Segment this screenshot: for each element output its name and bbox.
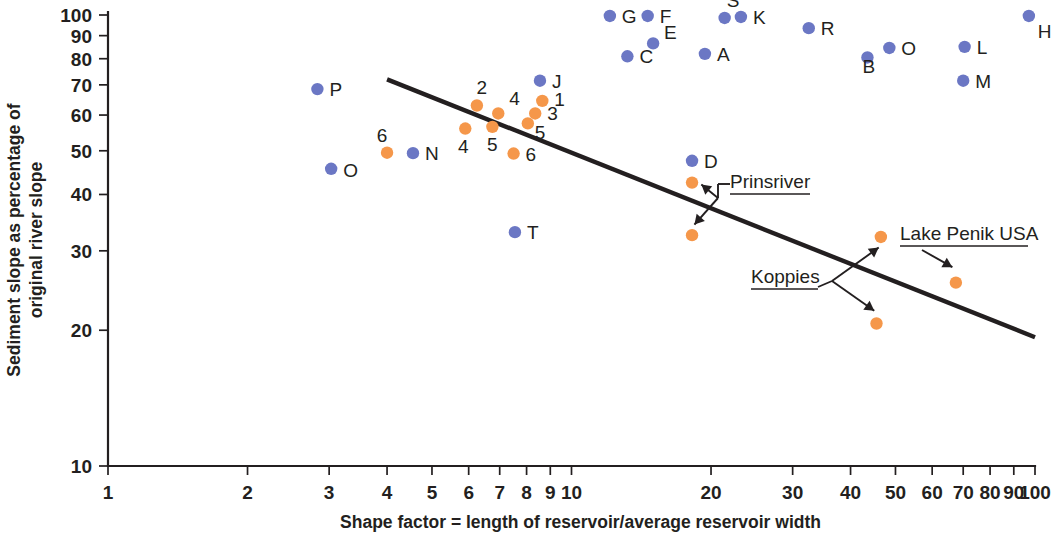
arrow-line: [818, 281, 832, 287]
y-tick-label: 60: [71, 105, 92, 126]
y-tick-label: 100: [60, 5, 92, 26]
x-tick-label: 8: [521, 482, 532, 503]
point-label: 4: [509, 88, 520, 109]
y-tick-label: 40: [71, 184, 92, 205]
point-label: E: [664, 22, 677, 43]
data-point: [529, 107, 541, 119]
x-tick-label: 3: [324, 482, 335, 503]
annotation-prinsriver: Prinsriver: [730, 171, 811, 192]
y-axis-title-line: original river slope: [26, 161, 46, 318]
data-point: [883, 42, 895, 54]
chart-page: 1020304050607080901001234567891020304050…: [0, 0, 1055, 540]
point-label: T: [527, 222, 539, 243]
point-label: M: [975, 71, 991, 92]
x-tick-label: 20: [700, 482, 721, 503]
data-point: [311, 83, 323, 95]
x-tick-label: 70: [953, 482, 974, 503]
data-point: [459, 122, 471, 134]
data-point: [686, 229, 698, 241]
data-point: [522, 117, 534, 129]
x-tick-label: 9: [545, 482, 556, 503]
point-label: 4: [458, 136, 469, 157]
data-point: [699, 48, 711, 60]
point-label: R: [821, 18, 835, 39]
y-tick-label: 20: [71, 320, 92, 341]
data-point: [641, 10, 653, 22]
x-tick-label: 100: [1019, 482, 1051, 503]
x-tick-label: 2: [242, 482, 253, 503]
x-tick-label: 80: [980, 482, 1001, 503]
point-label: 1: [554, 89, 565, 110]
y-tick-label: 10: [71, 456, 92, 477]
y-axis-title-line: Sediment slope as percentage of: [4, 103, 24, 376]
data-point: [407, 147, 419, 159]
data-point: [381, 147, 393, 159]
point-label: O: [343, 160, 358, 181]
data-point: [957, 75, 969, 87]
data-point: [604, 10, 616, 22]
point-label: S: [727, 0, 740, 11]
y-tick-label: 30: [71, 241, 92, 262]
point-label: P: [329, 79, 342, 100]
data-point: [803, 22, 815, 34]
point-label: 5: [487, 134, 498, 155]
x-tick-label: 30: [782, 482, 803, 503]
point-label: C: [639, 46, 653, 67]
data-point: [686, 155, 698, 167]
data-point: [471, 99, 483, 111]
scatter-plot: 1020304050607080901001234567891020304050…: [0, 0, 1055, 540]
x-tick-label: 40: [840, 482, 861, 503]
point-label: L: [977, 37, 988, 58]
point-label: B: [862, 56, 875, 77]
annotation-koppies: Koppies: [751, 266, 820, 287]
arrow-head: [701, 185, 712, 195]
x-tick-label: 6: [463, 482, 474, 503]
point-label: 6: [377, 125, 388, 146]
data-point: [1023, 10, 1035, 22]
data-point: [486, 121, 498, 133]
point-label: A: [717, 44, 730, 65]
data-point: [875, 231, 887, 243]
point-label: O: [901, 38, 916, 59]
point-label: 2: [477, 77, 488, 98]
y-tick-label: 80: [71, 49, 92, 70]
x-tick-label: 5: [427, 482, 438, 503]
x-tick-label: 4: [382, 482, 393, 503]
data-point: [870, 317, 882, 329]
data-point: [958, 41, 970, 53]
data-point: [735, 11, 747, 23]
trend-line: [387, 79, 1035, 337]
data-point: [686, 176, 698, 188]
y-tick-label: 90: [71, 26, 92, 47]
point-label: 6: [526, 144, 537, 165]
data-point: [492, 107, 504, 119]
x-tick-label: 50: [885, 482, 906, 503]
data-point: [325, 163, 337, 175]
x-tick-label: 60: [922, 482, 943, 503]
data-point: [507, 147, 519, 159]
point-label: 5: [535, 122, 546, 143]
point-label: K: [753, 7, 766, 28]
y-tick-label: 50: [71, 141, 92, 162]
data-point: [534, 75, 546, 87]
x-tick-label: 10: [561, 482, 582, 503]
y-axis-title: Sediment slope as percentage oforiginal …: [4, 103, 46, 376]
data-point: [950, 276, 962, 288]
y-tick-label: 70: [71, 75, 92, 96]
data-point: [509, 226, 521, 238]
data-point: [718, 12, 730, 24]
data-point: [621, 50, 633, 62]
x-axis-title: Shape factor = length of reservoir/avera…: [340, 512, 821, 532]
x-tick-label: 7: [494, 482, 505, 503]
point-label: H: [1038, 21, 1052, 42]
arrow-head: [868, 248, 879, 258]
arrow-head: [863, 301, 874, 311]
point-label: G: [622, 6, 637, 27]
point-label: N: [425, 143, 439, 164]
point-label: D: [704, 151, 718, 172]
annotation-lake-penik: Lake Penik USA: [900, 223, 1039, 244]
x-tick-label: 1: [103, 482, 114, 503]
